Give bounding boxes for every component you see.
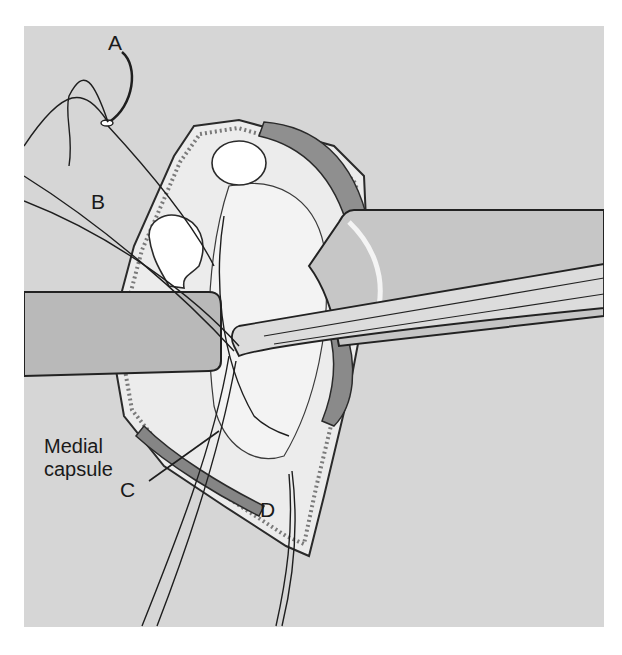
surgical-illustration: A B C D Medial capsule	[24, 26, 604, 627]
label-d: D	[260, 499, 275, 520]
illustration-drawing	[24, 26, 604, 627]
label-a: A	[108, 32, 122, 53]
bone-upper	[212, 141, 266, 185]
label-medial-capsule: Medial capsule	[44, 435, 113, 481]
label-medial-capsule-line2: capsule	[44, 458, 113, 481]
label-medial-capsule-line1: Medial	[44, 435, 113, 458]
left-retractor	[24, 292, 221, 376]
label-b: B	[91, 191, 105, 212]
label-c: C	[120, 479, 135, 500]
